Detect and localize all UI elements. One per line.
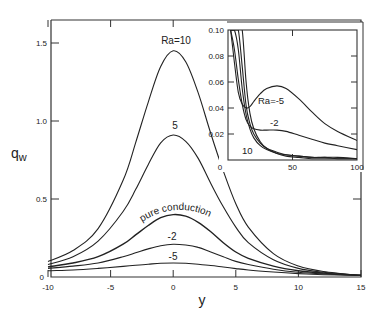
x-tick-label: 0	[171, 283, 176, 292]
x-tick-label: 5	[234, 283, 239, 292]
inset-x-tick-label: 0	[218, 163, 223, 172]
curve-label-ra5: 5	[172, 120, 178, 131]
curve-label-ra10: Ra=10	[161, 35, 191, 46]
curve-label-ra-2: -2	[168, 231, 177, 242]
y-tick-label: 0.5	[36, 195, 48, 204]
x-tick-label: -10	[42, 283, 54, 292]
inset-y-tick-label: 0.10	[208, 26, 224, 35]
x-tick-label: -5	[107, 283, 115, 292]
y-tick-label: 0	[40, 273, 45, 282]
main-plot-labels: Ra=105pure conduction-2-5	[137, 35, 213, 262]
inset-label-ra-5: Ra=-5	[258, 95, 284, 106]
inset-y-tick-label: 0.02	[208, 130, 224, 139]
inset-label-ra-2: -2	[270, 117, 278, 128]
y-axis-label: qw	[11, 145, 27, 163]
inset-label-ra10: 10	[242, 145, 253, 156]
y-axis-label-main: q	[11, 145, 19, 161]
x-tick-label: 15	[357, 283, 366, 292]
inset-plot: 0.020.040.060.080.10050100Ra=-5-210	[208, 22, 364, 172]
inset-y-tick-label: 0.08	[208, 52, 224, 61]
curve-label-ra-5: -5	[169, 251, 178, 262]
inset-y-tick-label: 0.04	[208, 104, 224, 113]
inset-x-tick-label: 50	[288, 163, 297, 172]
x-axis-label: y	[199, 292, 206, 308]
inset-y-tick-label: 0.06	[208, 78, 224, 87]
y-axis-label-subscript: w	[18, 151, 27, 163]
y-tick-label: 1.0	[36, 117, 48, 126]
x-tick-label: 10	[294, 283, 303, 292]
y-tick-label: 1.5	[36, 39, 48, 48]
curve-pure-conduction	[48, 215, 361, 276]
chart-figure: -10-505101500.51.01.5 Ra=105pure conduct…	[0, 0, 386, 324]
curve-label-pure-conduction: pure conduction	[137, 201, 213, 224]
inset-x-tick-label: 100	[350, 163, 364, 172]
